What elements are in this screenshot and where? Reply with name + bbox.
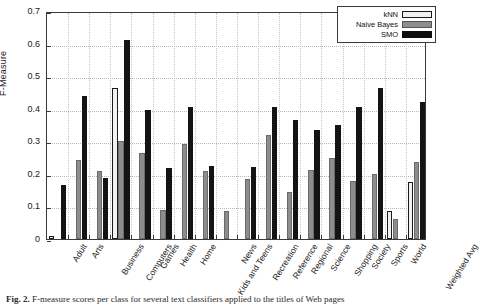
plot-area [46,12,426,240]
bar-nb [372,174,377,239]
bar-nb [203,171,208,239]
bar-group [89,13,110,239]
y-axis-tick-label: 0.7 [0,6,40,16]
bar-group [110,13,131,239]
legend-label-knn: kNN [383,10,398,19]
legend-item-naive-bayes: Naive Bayes [341,20,432,29]
bar-nb [182,144,187,239]
bar-group [321,13,342,239]
x-axis-tick-label: Adult [70,242,89,264]
x-axis-tick-label: Sports [389,242,411,268]
legend-swatch-naive-bayes [402,21,432,28]
legend-item-smo: SMO [341,30,432,39]
legend-item-knn: kNN [341,10,432,19]
y-axis-tick-label: 0.4 [0,104,40,114]
y-axis-tick-label: 0.6 [0,39,40,49]
bar-smo [420,102,425,239]
y-axis-tick-label: 0.1 [0,201,40,211]
bar-nb [287,192,292,239]
bar-group [279,13,300,239]
bar-smo [293,120,298,239]
bar-group [131,13,152,239]
bar-group [237,13,258,239]
bar-nb [97,171,102,239]
bar-nb [245,179,250,239]
bar-smo [82,96,87,239]
bar-group [174,13,195,239]
bar-nb [329,158,334,239]
bar-nb [414,162,419,239]
bar-smo [335,125,340,239]
bar-knn [387,211,392,239]
x-axis-tick-label: World [409,242,429,266]
bar-smo [251,167,256,239]
y-axis-title: F-Measure [0,51,8,96]
bar-smo [166,168,171,239]
bar-group [216,13,237,239]
x-axis-tick-label: Arts [89,242,105,260]
bar-nb [393,219,398,239]
bar-group [47,13,68,239]
y-axis-tick-label: 0.3 [0,136,40,146]
bar-group [406,13,427,239]
figure-caption: Fig. 2. F-measure scores per class for s… [6,294,440,304]
bar-nb [160,210,165,239]
bar-smo [356,107,361,239]
bar-nb [224,211,229,239]
legend-swatch-smo [402,31,432,38]
legend-label-smo: SMO [381,30,398,39]
bar-smo [103,178,108,239]
bar-group [385,13,406,239]
bar-nb [266,135,271,239]
figure-caption-prefix: Fig. 2. [6,294,30,304]
chart-legend: kNN Naive Bayes SMO [337,6,436,43]
bar-group [343,13,364,239]
figure-caption-text: F-measure scores per class for several t… [32,294,345,304]
x-axis-tick-labels: AdultArtsBusinessComputersGamesHealthHom… [46,242,426,302]
bar-nb [118,141,123,239]
legend-swatch-knn [402,11,432,18]
bar-smo [124,40,129,239]
x-axis-tick-label: Health [178,242,200,268]
bar-nb [308,170,313,239]
bar-smo [61,185,66,239]
bar-smo [378,88,383,239]
bar-nb [139,153,144,239]
bar-smo [314,130,319,239]
y-axis-tick-label: 0.2 [0,169,40,179]
bar-smo [188,107,193,239]
bar-group [153,13,174,239]
bar-knn [408,182,413,239]
bar-group [300,13,321,239]
bar-knn [49,236,54,239]
y-axis-tick-label: 0 [0,234,40,244]
bar-nb [350,181,355,239]
bar-group [364,13,385,239]
bar-smo [145,110,150,239]
x-axis-tick-label: Business [119,242,146,277]
legend-label-naive-bayes: Naive Bayes [356,20,398,29]
bar-group [68,13,89,239]
x-axis-tick-label: Home [198,242,219,267]
bar-group [258,13,279,239]
bar-smo [209,166,214,239]
bar-group [195,13,216,239]
bar-nb [76,160,81,239]
bar-knn [112,88,117,239]
bar-smo [272,107,277,239]
x-axis-tick-label: Weighted Avg [444,242,480,292]
